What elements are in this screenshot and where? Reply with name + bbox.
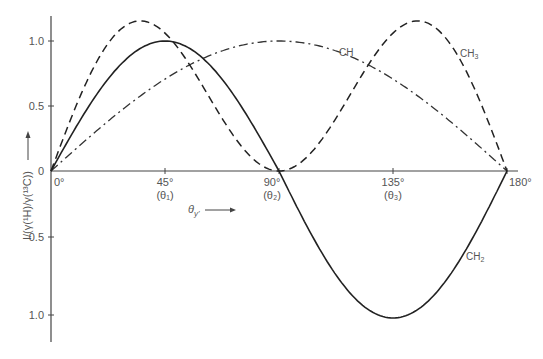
y-tick-0.5: 0.5 [29,100,44,112]
x-tick-90-sub: (θ₂) [263,189,281,201]
curve-ch [51,41,507,171]
y-axis-arrowhead-icon [26,131,31,138]
y-tick-neg-1.0: 1.0 [29,309,44,321]
x-tick-0: 0° [54,176,65,188]
label-ch: CH [339,47,353,58]
inept-intensity-chart: 1.0 0.5 0 0.5 1.0 0° 45° (θ₁) 90° (θ₂) 1… [0,0,543,359]
y-axis-title: I/(γ(¹H)/γ(¹³C)) [21,171,33,240]
x-axis-title: θy' [188,203,200,218]
x-tick-135-sub: (θ₃) [384,189,402,201]
x-tick-90: 90° [264,176,281,188]
y-tick-0: 0 [38,165,44,177]
curve-ch3 [51,21,507,171]
x-tick-135: 135° [382,176,405,188]
label-ch2: CH2 [466,251,484,263]
x-axis-arrowhead-icon [230,208,236,213]
x-tick-45-sub: (θ₁) [156,189,173,201]
x-tick-45: 45° [157,176,174,188]
label-ch3: CH3 [460,48,478,60]
y-tick-1.0: 1.0 [29,35,44,47]
x-tick-180: 180° [509,176,532,188]
